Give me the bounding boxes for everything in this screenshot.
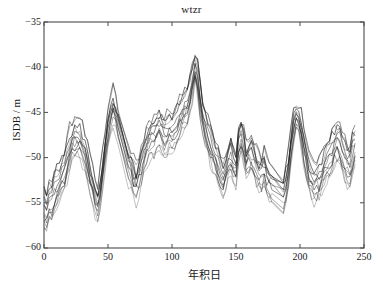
chart-page: wtzr ISDB / m −35 −40 −45 −50 −55 −60 0 … <box>0 0 383 286</box>
plot-background <box>44 22 364 248</box>
chart-figure: wtzr ISDB / m −35 −40 −45 −50 −55 −60 0 … <box>0 0 383 286</box>
plot-area <box>0 0 383 286</box>
